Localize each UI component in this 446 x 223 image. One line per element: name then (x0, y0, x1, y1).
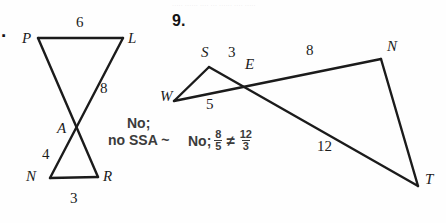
ratio-left-numerator: 8 (214, 129, 222, 140)
measure-label-WE: 5 (206, 96, 214, 113)
measure-label-NR: 3 (70, 190, 78, 207)
ratio-left-fraction: 8 5 (214, 129, 222, 152)
answer-8-line-2: no SSA ~ (108, 132, 169, 149)
vertex-label-P: P (22, 30, 31, 47)
ratio-right-fraction: 12 3 (239, 129, 253, 152)
vertex-label-S: S (201, 44, 209, 61)
answer-8-line-1: No; (108, 115, 169, 132)
ratio-right-denominator: 3 (242, 140, 250, 152)
worksheet-page: ····· ······ ···· ··· ······ ···· ····· … (0, 0, 446, 223)
vertex-label-A: A (57, 120, 66, 137)
ratio-left-denominator: 5 (214, 140, 222, 152)
item-number-8: . (1, 20, 5, 42)
segment-LN (50, 38, 123, 178)
answer-9-prefix: No; (188, 133, 211, 150)
measure-label-AN: 4 (42, 146, 50, 163)
vertex-label-E: E (245, 56, 254, 73)
figures-line-art (0, 0, 446, 223)
measure-label-SE: 3 (228, 44, 236, 61)
ratio-right-numerator: 12 (239, 129, 253, 140)
segment-NT (381, 59, 418, 186)
vertex-label-R: R (103, 168, 112, 185)
vertex-label-W: W (160, 88, 173, 105)
segment-WS (174, 67, 209, 101)
measure-label-LA: 8 (100, 80, 108, 97)
scan-bleed-text: ····· ······ ···· ··· ······ ···· ····· (172, 2, 256, 8)
segment-WN (174, 59, 381, 101)
not-equal-icon: ≠ (225, 132, 235, 150)
vertex-label-N: N (26, 168, 36, 185)
answer-text-8: No; no SSA ~ (108, 115, 169, 148)
answer-text-9: No; 8 5 ≠ 12 3 (188, 130, 253, 153)
measure-label-PL: 6 (76, 14, 84, 31)
segment-ST (209, 67, 418, 186)
vertex-label-L: L (128, 30, 136, 47)
segment-NR (50, 177, 98, 178)
item-number-9: 9. (172, 12, 185, 30)
measure-label-ET: 12 (317, 138, 332, 155)
vertex-label-T: T (425, 171, 433, 188)
measure-label-EN: 8 (306, 42, 314, 59)
vertex-label-N: N (387, 38, 397, 55)
